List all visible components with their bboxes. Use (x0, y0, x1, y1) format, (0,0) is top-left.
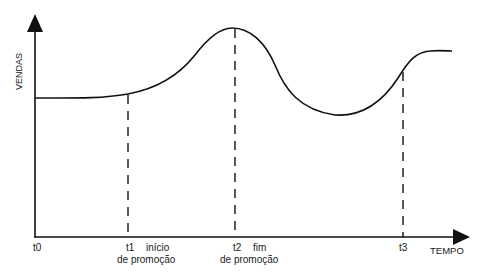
tick-t1: t1 (126, 242, 134, 253)
t1-note-line2: de promoção (117, 254, 175, 265)
tick-t3: t3 (399, 242, 407, 253)
y-axis-label: VENDAS (14, 53, 24, 90)
sales-promotion-diagram (0, 0, 494, 277)
y-axis-arrow-icon (27, 14, 43, 32)
tick-t2: t2 (233, 242, 241, 253)
t1-note-line1: início (146, 242, 169, 253)
tick-t0: t0 (33, 242, 41, 253)
sales-curve (35, 28, 452, 115)
t2-note-line2: de promoção (220, 254, 278, 265)
x-axis-arrow-icon (453, 229, 470, 245)
x-axis-label: TEMPO (430, 245, 464, 256)
t2-note-line1: fim (253, 242, 266, 253)
